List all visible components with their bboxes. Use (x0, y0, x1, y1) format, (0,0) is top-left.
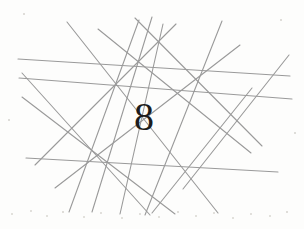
captcha-image: 8 (0, 0, 304, 229)
noise-speck (30, 210, 32, 212)
noise-speck (100, 212, 102, 214)
distortion-line (26, 158, 278, 172)
noise-speck (23, 13, 25, 15)
noise-speck (158, 216, 160, 218)
distortion-line (135, 18, 262, 146)
distortion-line (152, 88, 252, 213)
noise-speck (269, 215, 271, 217)
noise-speck (286, 211, 288, 213)
noise-speck (83, 216, 85, 218)
noise-speck (294, 132, 295, 133)
noise-speck (8, 119, 9, 120)
distortion-line (67, 22, 218, 213)
noise-speck (250, 213, 252, 215)
noise-speck (139, 213, 141, 215)
captcha-distortion-lines (0, 0, 304, 229)
distortion-line (183, 55, 289, 189)
distortion-line (69, 20, 139, 212)
noise-speck (280, 19, 282, 21)
noise-speck (213, 212, 215, 214)
distortion-line (35, 24, 176, 165)
noise-speck (46, 215, 48, 217)
noise-speck (62, 211, 64, 213)
lines-group (18, 17, 292, 215)
noise-speck (195, 215, 197, 217)
distortion-line (22, 73, 150, 215)
noise-speck (177, 211, 179, 213)
